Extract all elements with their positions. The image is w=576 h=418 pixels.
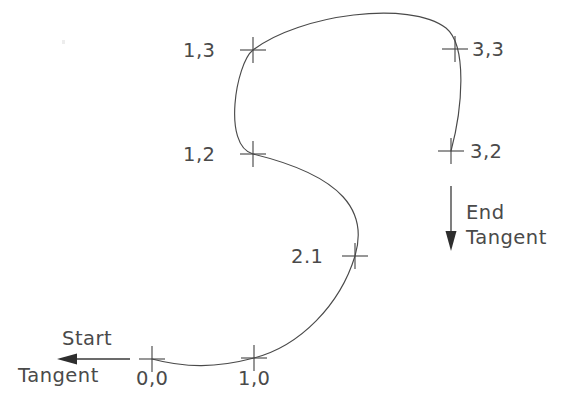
control-point-label: 1,2 — [183, 143, 216, 166]
control-point-markers — [139, 36, 468, 372]
control-point-marker — [438, 138, 464, 164]
tangent-label-line2: Tangent — [17, 364, 99, 387]
tangent-arrow-head-icon — [446, 231, 457, 251]
control-point-label: 3,2 — [470, 140, 503, 163]
tangent-label-line2: Tangent — [465, 226, 547, 249]
control-point-marker — [240, 141, 266, 167]
control-point-label: 1,0 — [238, 367, 271, 390]
control-point-label: 1,3 — [183, 39, 216, 62]
control-point-marker — [342, 243, 368, 269]
control-point-marker — [442, 36, 468, 62]
control-point-label: 0,0 — [136, 367, 169, 390]
end-tangent: EndTangent — [446, 186, 547, 251]
spline-curve — [152, 13, 461, 365]
control-point-label: 3,3 — [472, 38, 505, 61]
tangent-annotations: StartTangentEndTangent — [17, 186, 547, 387]
tangent-label-line1: Start — [62, 327, 112, 350]
scan-speck — [62, 40, 65, 44]
tangent-arrow-head-icon — [57, 354, 77, 365]
control-point-labels: 1,33,31,23,22.10,01,0 — [136, 38, 505, 390]
control-point-marker — [240, 37, 266, 63]
spline-curve-diagram: 1,33,31,23,22.10,01,0 StartTangentEndTan… — [0, 0, 576, 418]
tangent-label-line1: End — [466, 201, 505, 224]
control-point-label: 2.1 — [291, 245, 324, 268]
start-tangent: StartTangent — [17, 327, 130, 387]
scan-artifacts — [62, 40, 65, 44]
